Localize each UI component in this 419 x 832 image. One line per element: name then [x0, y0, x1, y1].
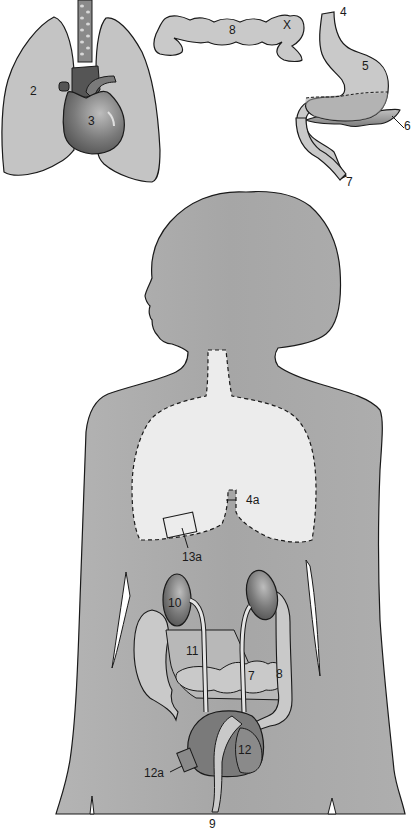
label-x-mark: X — [283, 18, 291, 32]
label-jejunum-7: 7 — [248, 669, 255, 683]
trachea — [78, 0, 92, 62]
pancreas-leader — [392, 116, 404, 128]
label-12a: 12a — [144, 766, 164, 780]
body-silhouette: 4a 13a 10 11 7 8 12 12a 9 — [56, 192, 405, 831]
label-esophagus-4: 4 — [340, 5, 347, 19]
label-bladder-12: 12 — [238, 743, 252, 757]
label-colon-8: 8 — [276, 667, 283, 681]
label-heart: 3 — [88, 114, 95, 128]
stomach-inset: 4 5 6 7 — [296, 5, 411, 189]
colon-inset: 8 X — [154, 15, 304, 61]
left-lung — [2, 17, 74, 175]
label-lung: 2 — [30, 84, 37, 98]
label-intestine-11: 11 — [186, 644, 199, 658]
label-13a: 13a — [182, 550, 202, 564]
label-duodenum-7: 7 — [346, 175, 353, 189]
label-exit-9: 9 — [209, 817, 216, 831]
label-pancreas-6: 6 — [404, 119, 411, 133]
pulmonary-vessel — [59, 82, 69, 91]
thorax-inset: 2 3 — [2, 0, 160, 182]
label-4a: 4a — [246, 493, 260, 507]
label-kidney-10: 10 — [168, 596, 182, 610]
label-stomach-5: 5 — [362, 59, 369, 73]
label-colon-8: 8 — [229, 23, 236, 37]
anatomy-diagram: 2 3 8 X 4 5 6 7 — [0, 0, 419, 832]
